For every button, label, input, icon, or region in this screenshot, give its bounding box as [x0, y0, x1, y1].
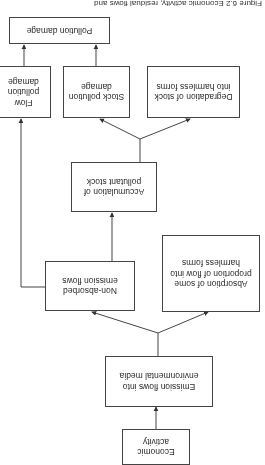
node-label: Accumulation of pollutant stock	[76, 177, 152, 198]
node-absorption: Absorption of some proportion of flow in…	[162, 235, 260, 312]
arrow-to-flow-damage	[21, 119, 45, 287]
node-label: Non-absorbed emission flows	[50, 276, 130, 297]
node-label: Economic activity	[127, 437, 185, 458]
node-label: Pollution damage	[27, 25, 93, 36]
arrow-to-degradation	[140, 119, 190, 139]
node-flow-damage: Flow pollution damage	[0, 66, 51, 118]
node-label: Absorption of some proportion of flow in…	[167, 258, 255, 290]
node-label: Degradation of stock into harmless forms	[152, 82, 235, 103]
node-label: Flow pollution damage	[1, 76, 46, 108]
node-emission-flows: Emission flows into environmental media	[105, 356, 213, 407]
figure-caption: Figure 6.2 Economic activity, residual f…	[94, 0, 262, 8]
node-label: Stock pollution damage	[68, 82, 125, 103]
node-accumulation: Accumulation of pollutant stock	[71, 162, 157, 212]
arrow-to-stock-damage	[100, 119, 140, 139]
arrow-to-non-absorbed	[92, 312, 158, 333]
node-label: Emission flows into environmental media	[110, 371, 208, 392]
arrow-to-absorption	[158, 312, 208, 333]
node-degradation: Degradation of stock into harmless forms	[147, 66, 240, 118]
node-stock-damage: Stock pollution damage	[63, 66, 130, 118]
node-non-absorbed: Non-absorbed emission flows	[45, 261, 135, 311]
node-pollution-damage: Pollution damage	[9, 17, 110, 44]
node-economic-activity: Economic activity	[122, 429, 190, 465]
